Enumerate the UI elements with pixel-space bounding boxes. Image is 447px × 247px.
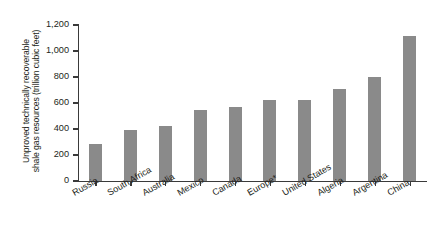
bar-series [78,25,427,181]
bar [229,107,242,181]
y-axis-tick-label: 600 [25,98,69,107]
y-axis-tick-label: 1,200 [25,20,69,29]
bar [298,100,311,181]
y-axis-tick-label: 1,000 [25,46,69,55]
x-axis-label: Russia [71,176,100,198]
bar [333,89,346,181]
bar [263,100,276,181]
y-axis-tick-label: 200 [25,150,69,159]
y-axis-tick-label: 0 [25,176,69,185]
bar-chart: Unproved technically recoverable shale g… [0,0,447,247]
y-axis-tick-label: 800 [25,72,69,81]
bar [194,110,207,181]
y-axis-tick-label: 400 [25,124,69,133]
bar [403,36,416,181]
bar [368,77,381,181]
